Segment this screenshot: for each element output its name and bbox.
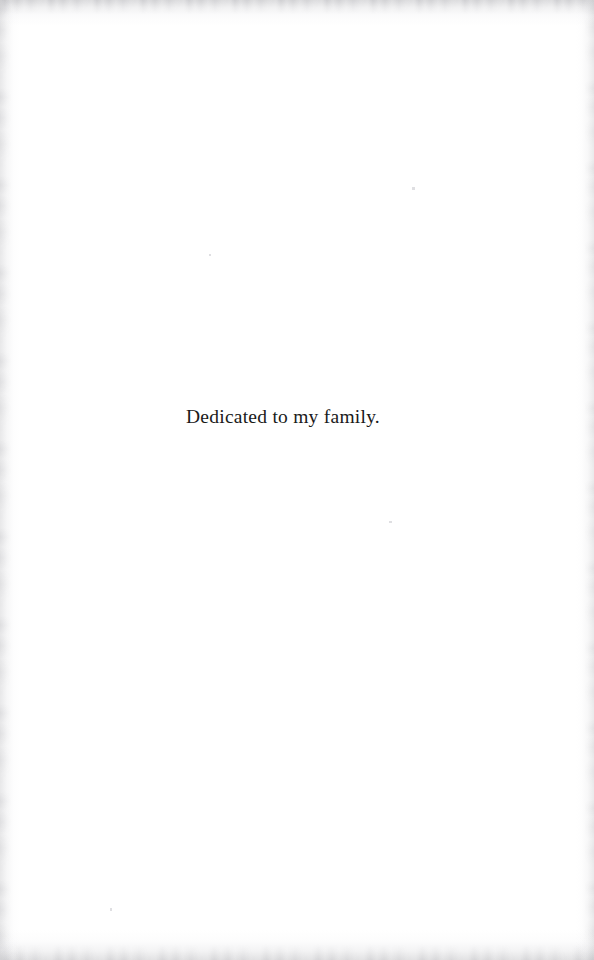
scan-edge-bottom [0,930,594,960]
scan-speck [110,908,112,911]
dedication-block: Dedicated to my family. [0,404,594,430]
scan-edge-top-mottle [0,0,594,14]
scan-edge-left [0,0,20,960]
scan-edge-left-mottle [0,0,11,960]
scan-speck [389,521,392,523]
scan-edge-right-mottle [584,0,594,960]
scan-speck [412,187,415,190]
document-page: Dedicated to my family. [0,0,594,960]
scan-speck [209,254,211,256]
scan-edge-top [0,0,594,26]
scan-edge-right [576,0,594,960]
scan-edge-bottom-mottle [0,944,594,960]
paper-tone-overlay [0,0,594,960]
dedication-text: Dedicated to my family. [186,404,380,430]
